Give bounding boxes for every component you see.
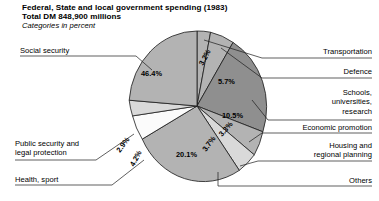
- callout-defence: Defence: [344, 67, 372, 76]
- leader-housing: [240, 161, 372, 166]
- pct-others: 20.1%: [176, 150, 197, 159]
- pie-slice-social-security: [129, 31, 197, 106]
- callout-schools: Schools,universities,research: [332, 88, 372, 116]
- pie-svg: 46.4% 3.2% 5.7% 10.5% 3.3% 3.7% 20.1% 4.…: [0, 0, 379, 201]
- pie-chart-figure: Federal, State and local government spen…: [0, 0, 379, 201]
- pct-health-sport: 4.2%: [128, 148, 144, 167]
- callout-transportation: Transportation: [323, 47, 372, 56]
- callout-health-sport: Health, sport: [15, 175, 58, 184]
- callout-social-security: Social security: [20, 46, 69, 55]
- callout-others: Others: [349, 176, 372, 185]
- pct-public-security: 2.9%: [114, 135, 131, 154]
- pct-defence: 5.7%: [218, 77, 235, 86]
- callout-economic-promotion: Economic promotion: [302, 123, 372, 132]
- pct-social-security: 46.4%: [141, 69, 162, 78]
- leader-social-security: [20, 56, 152, 70]
- callout-public-security: Public security andlegal protection: [15, 139, 79, 158]
- pct-schools: 10.5%: [222, 111, 243, 120]
- callout-housing: Housing andregional planning: [314, 141, 372, 160]
